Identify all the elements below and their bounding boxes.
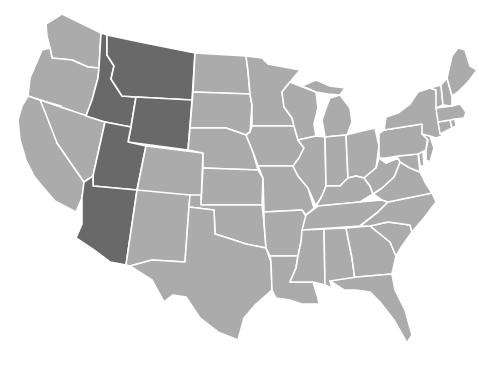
state-indiana[interactable] [325, 135, 348, 186]
state-new-mexico[interactable] [126, 190, 190, 266]
states-layer [18, 14, 477, 343]
state-kansas[interactable] [201, 168, 263, 205]
state-north-dakota[interactable] [193, 53, 250, 94]
us-map [0, 0, 479, 368]
state-florida[interactable] [330, 274, 412, 343]
state-montana[interactable] [107, 35, 195, 100]
state-michigan-lower[interactable] [322, 95, 352, 137]
state-maine[interactable] [447, 48, 477, 96]
state-wyoming[interactable] [128, 97, 192, 150]
